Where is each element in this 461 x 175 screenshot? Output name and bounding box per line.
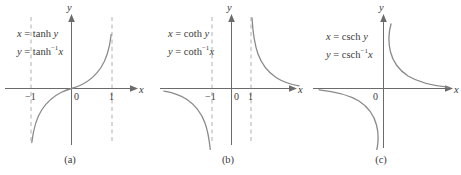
panel-c-equations: x = csch y y = csch−1x: [326, 30, 373, 62]
panel-c-equation-1: x = csch y: [326, 30, 373, 44]
x-axis-arrow: [130, 85, 138, 92]
y-axis-arrow: [68, 14, 75, 22]
hyperbolic-inverse-functions-figure: x = tanh y y = tanh−1x x y −1 0 1 (a) x: [0, 0, 461, 175]
curve-arcsch-left: [319, 90, 378, 150]
panel-b-caption: (b): [208, 154, 248, 165]
panel-b-plot: [155, 0, 305, 150]
y-axis-arrow: [228, 14, 235, 22]
panel-b-xtick--1: −1: [205, 91, 216, 102]
panel-b-xlabel: x: [298, 84, 303, 95]
panel-b-equations: x = coth y y = coth−1x: [168, 27, 214, 59]
panel-a-equation-1: x = tanh y: [17, 27, 63, 41]
panel-a-caption: (a): [50, 154, 90, 165]
panel-c: x = csch y y = csch−1x x y 0 (c): [308, 0, 458, 175]
panel-a: x = tanh y y = tanh−1x x y −1 0 1 (a): [0, 0, 150, 175]
panel-c-caption: (c): [361, 154, 401, 165]
curve-arcoth-left: [164, 91, 211, 150]
y-axis-arrow: [380, 14, 387, 22]
panel-c-equation-2: y = csch−1x: [326, 44, 373, 62]
panel-a-xtick-1: 1: [109, 91, 114, 102]
panel-a-ylabel: y: [67, 2, 72, 13]
panel-a-xtick--1: −1: [25, 91, 36, 102]
panel-b: x = coth y y = coth−1x x y −1 0 1 (b): [155, 0, 305, 175]
panel-b-equation-2: y = coth−1x: [168, 41, 214, 59]
panel-a-plot: [0, 0, 150, 150]
curve-arcoth-right: [252, 18, 299, 86]
panel-c-plot: [308, 0, 461, 150]
panel-a-equations: x = tanh y y = tanh−1x: [17, 27, 63, 59]
panel-c-ylabel: y: [379, 2, 384, 13]
x-axis-arrow: [289, 85, 297, 92]
panel-b-xtick-0: 0: [234, 91, 239, 102]
panel-b-ylabel: y: [227, 2, 232, 13]
panel-c-xlabel: x: [454, 84, 459, 95]
panel-b-xtick-1: 1: [248, 91, 253, 102]
panel-a-xtick-0: 0: [74, 91, 79, 102]
panel-b-equation-1: x = coth y: [168, 27, 214, 41]
panel-c-xtick-0: 0: [373, 91, 378, 102]
panel-a-xlabel: x: [139, 84, 144, 95]
curve-arcsch-right: [389, 24, 448, 87]
x-axis-arrow: [445, 85, 453, 92]
panel-a-equation-2: y = tanh−1x: [17, 41, 63, 59]
